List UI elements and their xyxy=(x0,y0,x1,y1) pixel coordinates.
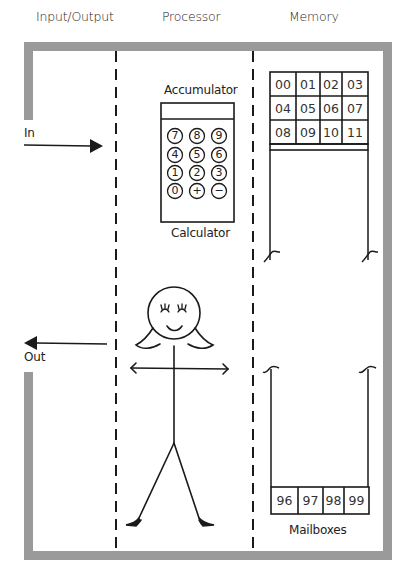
mailbox-cell: 11 xyxy=(342,125,368,140)
out-label: Out xyxy=(24,350,45,364)
shoe-left xyxy=(126,518,141,526)
mailbox-cell: 03 xyxy=(342,77,368,92)
mailbox-cell: 01 xyxy=(296,77,320,92)
calculator-key: 0 xyxy=(167,183,183,199)
mailbox-cell: 07 xyxy=(342,101,368,116)
frame-right xyxy=(383,42,392,560)
calculator-key: 9 xyxy=(211,128,227,144)
frame-top xyxy=(24,42,392,51)
smile xyxy=(167,326,182,331)
mailbox-cell: 02 xyxy=(320,77,342,92)
calculator-key: 7 xyxy=(167,128,183,144)
mailbox-cell: 00 xyxy=(270,77,296,92)
leg-right xyxy=(174,443,199,518)
eyes xyxy=(161,304,186,312)
frame-bottom xyxy=(24,551,392,560)
mailbox-cell: 96 xyxy=(271,493,298,508)
calculator-key: 1 xyxy=(167,165,183,181)
in-label: In xyxy=(24,126,35,140)
mailbox-cell: 04 xyxy=(270,101,296,116)
stick-figure-icon xyxy=(126,287,228,526)
calculator-key: 5 xyxy=(189,147,205,163)
mailboxes-label: Mailboxes xyxy=(289,523,347,537)
mailbox-cell: 10 xyxy=(320,125,342,140)
calculator-key: 2 xyxy=(189,165,205,181)
out-arrow-icon xyxy=(24,336,107,350)
mailbox-cell: 98 xyxy=(323,493,344,508)
mailbox-cell: 05 xyxy=(296,101,320,116)
shoe-right xyxy=(199,518,214,526)
calculator-key: + xyxy=(189,183,205,199)
frame-left-lower xyxy=(24,372,33,560)
mailbox-cell: 09 xyxy=(296,125,320,140)
break-mark-icon xyxy=(264,251,280,262)
memory-body xyxy=(263,150,378,487)
calculator-key: − xyxy=(211,183,227,199)
frame-left-upper xyxy=(24,42,33,120)
break-mark-icon xyxy=(362,251,378,262)
leg-left xyxy=(139,443,174,518)
accumulator-label: Accumulator xyxy=(164,83,238,97)
calculator-key: 8 xyxy=(189,128,205,144)
mailbox-cell: 97 xyxy=(298,493,323,508)
arms xyxy=(131,368,228,369)
mailbox-cell: 99 xyxy=(344,493,369,508)
calculator-label: Calculator xyxy=(171,226,230,240)
in-arrow-icon xyxy=(24,139,103,153)
mailbox-cell: 06 xyxy=(320,101,342,116)
calculator-key: 3 xyxy=(211,165,227,181)
calculator-key: 6 xyxy=(211,147,227,163)
mailbox-cell: 08 xyxy=(270,125,296,140)
calculator-key: 4 xyxy=(167,147,183,163)
